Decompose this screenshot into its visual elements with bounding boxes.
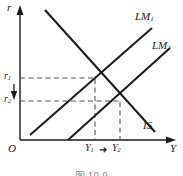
tick-label-r1: r1 (4, 71, 11, 81)
curve-label-lm2-base: LM (152, 39, 167, 51)
tick-label-Y1: Y1 (85, 143, 94, 153)
curve-label-lm1-base: LM (135, 10, 150, 22)
curve-label-lm1-sub: 1 (150, 15, 153, 22)
is-lm-figure: r Y O r1 r2 Y1 ➜ Y2 LM1 LM2 IS 图 10-9 (0, 0, 183, 176)
y-axis-label: r (7, 2, 11, 13)
y-axis (17, 5, 24, 140)
curve-label-lm2-sub: 2 (167, 44, 170, 51)
x-axis-label: Y (170, 143, 176, 154)
tick-label-r2-sub: 2 (8, 97, 11, 104)
tick-label-r2: r2 (4, 94, 11, 104)
is-curve (45, 10, 155, 132)
output-increase-arrow: ➜ (99, 145, 107, 155)
tick-label-Y1-sub: 1 (91, 146, 94, 153)
curve-label-lm2: LM2 (152, 40, 171, 52)
tick-label-Y2: Y2 (112, 143, 121, 153)
tick-label-r1-sub: 1 (8, 74, 11, 81)
x-axis (20, 137, 176, 144)
rate-decrease-arrow (11, 84, 17, 100)
figure-caption: 图 10-9 (0, 168, 183, 176)
origin-label: O (8, 143, 16, 154)
curve-label-lm1: LM1 (135, 11, 154, 23)
curve-label-is: IS (143, 120, 152, 131)
tick-label-Y2-sub: 2 (118, 146, 121, 153)
lm2-curve (68, 48, 170, 140)
